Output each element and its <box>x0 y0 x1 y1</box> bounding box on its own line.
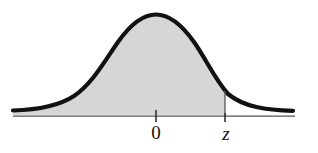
axis-label-mean: 0 <box>141 123 171 142</box>
normal-distribution-figure: 0 z <box>0 0 318 153</box>
shaded-area-left-of-z <box>13 15 225 116</box>
axis-label-z: z <box>211 124 241 143</box>
